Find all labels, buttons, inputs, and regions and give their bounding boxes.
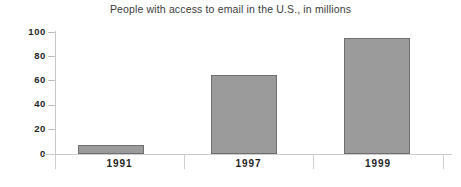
- y-tick-label-80: 80: [0, 51, 46, 61]
- y-tick-mark-40: [48, 105, 55, 106]
- y-tick-mark-20: [48, 129, 55, 130]
- y-tick-label-100: 100: [0, 27, 46, 37]
- y-tick-label-text: 80: [2, 51, 46, 61]
- y-tick-label-40: 40: [0, 99, 46, 109]
- y-tick-label-0: 0: [0, 149, 46, 159]
- y-tick-mark-100: [48, 32, 55, 33]
- category-separator-right: [443, 154, 444, 169]
- x-axis-line: [44, 154, 452, 155]
- y-tick-label-60: 60: [0, 75, 46, 85]
- bar-1997: [211, 75, 277, 154]
- y-axis-line: [55, 31, 56, 155]
- y-tick-label-text: 60: [2, 75, 46, 85]
- x-tick-label-1991: 1991: [55, 158, 184, 170]
- y-tick-label-text: 100: [2, 27, 46, 37]
- y-tick-label-text: 0: [2, 149, 46, 159]
- chart-screenshot: People with access to email in the U.S.,…: [0, 0, 461, 187]
- bar-1999: [344, 38, 410, 154]
- plot-wrapper: 100 80 60 40 20 0: [0, 0, 461, 187]
- y-tick-label-text: 20: [2, 124, 46, 134]
- bar-1991: [78, 145, 144, 154]
- y-tick-label-text: 40: [2, 99, 46, 109]
- x-tick-label-1997: 1997: [184, 158, 313, 170]
- x-tick-label-1999: 1999: [313, 158, 443, 170]
- y-tick-mark-60: [48, 80, 55, 81]
- y-tick-label-20: 20: [0, 124, 46, 134]
- y-tick-mark-80: [48, 56, 55, 57]
